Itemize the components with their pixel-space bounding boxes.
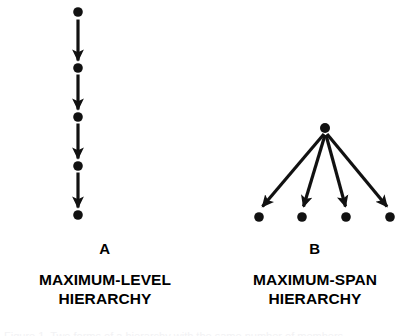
panel-maximum-span: B MAXIMUM-SPAN HIERARCHY — [210, 0, 420, 336]
caption-panel-b: B MAXIMUM-SPAN HIERARCHY — [210, 240, 420, 308]
node-b3 — [341, 212, 351, 222]
panel-title-a-line1: MAXIMUM-LEVEL — [0, 270, 210, 289]
node-a2 — [73, 63, 83, 73]
node-b4 — [385, 212, 395, 222]
figure-root: A MAXIMUM-LEVEL HIERARCHY — [0, 0, 420, 336]
panel-title-b-line2: HIERARCHY — [210, 289, 420, 308]
fan-hierarchy-diagram — [210, 0, 420, 236]
fan-edges — [263, 134, 388, 207]
node-a1 — [73, 7, 83, 17]
panel-title-b-line1: MAXIMUM-SPAN — [210, 270, 420, 289]
node-a4 — [73, 161, 83, 171]
clipped-figure-caption: Figure 1. Two forms of a hierarchy with … — [0, 330, 420, 336]
caption-panel-a: A MAXIMUM-LEVEL HIERARCHY — [0, 240, 210, 308]
panel-title-a-line2: HIERARCHY — [0, 289, 210, 308]
node-b0-root — [320, 123, 330, 133]
node-a3 — [73, 112, 83, 122]
node-a5 — [73, 210, 83, 220]
panel-letter-a: A — [0, 240, 210, 258]
node-b1 — [254, 212, 264, 222]
node-b2 — [297, 212, 307, 222]
chain-hierarchy-diagram — [0, 0, 210, 236]
panel-maximum-level: A MAXIMUM-LEVEL HIERARCHY — [0, 0, 210, 336]
panel-letter-b: B — [210, 240, 420, 258]
